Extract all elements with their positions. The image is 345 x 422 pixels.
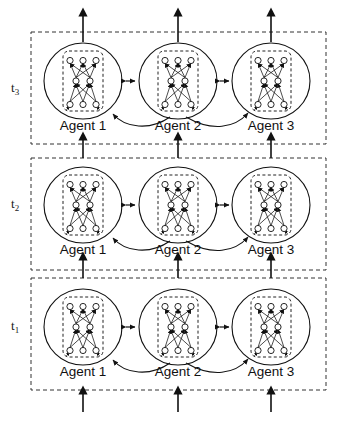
agent-label: Agent 3 <box>248 364 295 379</box>
agent-label: Agent 3 <box>248 118 295 133</box>
figure-canvas: t3 Agent 1 Agent 2 Agent 3 <box>0 0 345 422</box>
agent-label: Agent 2 <box>155 118 202 133</box>
agent-label: Agent 1 <box>60 364 107 379</box>
agent-label: Agent 1 <box>60 118 107 133</box>
agent-label: Agent 2 <box>155 364 202 379</box>
